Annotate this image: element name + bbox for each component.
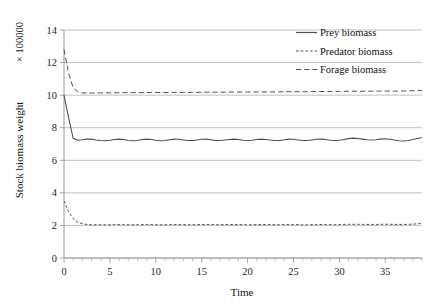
x-tick-label-15: 15 (196, 266, 207, 277)
legend-label-predator-biomass: Predator biomass (320, 46, 393, 57)
x-tick-label-10: 10 (151, 266, 162, 277)
x-axis-ticks (64, 258, 385, 263)
y-tick-label-0: 0 (52, 253, 57, 264)
x-axis-title: Time (231, 286, 254, 298)
y-axis-unit-label: × 100000 (14, 22, 25, 62)
x-tick-label-20: 20 (242, 266, 253, 277)
legend-label-prey-biomass: Prey biomass (320, 27, 376, 38)
line-chart: 02468101214 05101520253035 Prey biomass … (0, 0, 438, 306)
legend: Prey biomass Predator biomass Forage bio… (296, 27, 393, 75)
y-tick-label-8: 8 (52, 122, 57, 133)
chart-container: 02468101214 05101520253035 Prey biomass … (0, 0, 438, 306)
y-tick-label-12: 12 (47, 57, 58, 68)
legend-label-forage-biomass: Forage biomass (320, 64, 386, 75)
data-series-group (64, 50, 422, 225)
series-line-prey-biomass (64, 95, 422, 141)
y-axis-tick-labels: 02468101214 (47, 25, 58, 264)
x-tick-label-30: 30 (334, 266, 345, 277)
x-axis-tick-labels: 05101520253035 (61, 266, 390, 277)
y-tick-label-14: 14 (47, 25, 58, 36)
x-tick-label-0: 0 (61, 266, 66, 277)
y-tick-label-2: 2 (52, 220, 57, 231)
series-line-predator-biomass (64, 201, 422, 225)
y-tick-label-10: 10 (47, 90, 58, 101)
y-axis-title: Stock biomass weight (13, 102, 25, 199)
x-tick-label-25: 25 (288, 266, 299, 277)
y-tick-label-6: 6 (52, 155, 57, 166)
x-tick-label-5: 5 (107, 266, 112, 277)
y-axis-ticks (60, 30, 64, 258)
y-tick-label-4: 4 (52, 187, 58, 198)
x-tick-label-35: 35 (380, 266, 391, 277)
